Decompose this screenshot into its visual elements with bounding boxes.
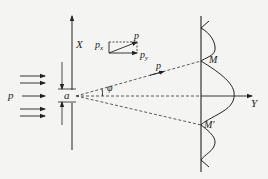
slit-width-label: a: [64, 90, 70, 101]
vector-px-label: px: [95, 40, 103, 52]
momentum-vector-diagram: [109, 42, 137, 53]
diffraction-diagram: p a X Y φ p p px py M M': [0, 0, 268, 179]
first-min-upper-label: M: [209, 55, 217, 65]
vector-p-label: p: [134, 31, 139, 41]
diagram-canvas: [0, 0, 268, 179]
first-min-lower-label: M': [204, 120, 214, 130]
momentum-ray-arrow: [150, 71, 164, 75]
y-axis-label: Y: [251, 98, 257, 109]
incident-momentum-label: p: [8, 90, 14, 101]
x-axis-label: X: [76, 39, 83, 50]
angle-arc: [102, 89, 103, 96]
incident-beam-arrows: [20, 76, 45, 116]
vector-py-label: py: [140, 50, 148, 62]
intensity-curve: [201, 21, 234, 167]
slit-barrier: [58, 16, 76, 150]
ray-to-m: [76, 61, 201, 96]
ray-to-m-prime: [76, 96, 201, 125]
diffracted-momentum-label: p: [156, 61, 161, 71]
vector-p: [109, 42, 137, 53]
diffraction-rays: [76, 61, 201, 125]
angle-label: φ: [107, 83, 113, 93]
